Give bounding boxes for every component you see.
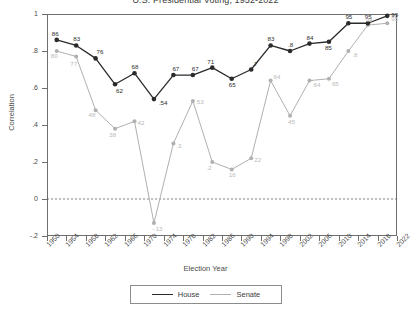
data-label-house: 85 (325, 45, 332, 51)
data-point-senate[interactable] (133, 119, 137, 123)
data-label-house: .8 (288, 42, 293, 48)
data-point-house[interactable] (54, 38, 59, 43)
data-label-senate: 94 (366, 17, 373, 23)
data-label-house: 62 (116, 88, 123, 94)
legend-label-house: House (178, 290, 200, 299)
data-label-senate: 95 (391, 16, 398, 22)
data-label-senate: 53 (197, 99, 204, 105)
data-label-senate: 16 (229, 172, 236, 178)
data-point-house[interactable] (210, 65, 215, 70)
data-label-house: 67 (172, 66, 179, 72)
data-point-house[interactable] (93, 56, 98, 61)
data-point-house[interactable] (74, 43, 79, 48)
legend-item-senate[interactable]: Senate (210, 290, 260, 299)
data-label-house: 68 (132, 64, 139, 70)
data-point-house[interactable] (307, 41, 312, 46)
data-label-senate: -.13 (152, 226, 163, 232)
chart-legend: House Senate (130, 285, 282, 304)
data-point-house[interactable] (288, 49, 293, 54)
data-label-house: 83 (268, 36, 275, 42)
data-label-house: .54 (159, 100, 168, 106)
data-label-senate: 64 (274, 74, 281, 80)
chart-canvas (47, 14, 397, 236)
data-point-house[interactable] (171, 73, 176, 78)
data-point-house[interactable] (152, 97, 157, 102)
data-point-house[interactable] (191, 73, 196, 78)
data-label-senate: .2 (206, 165, 211, 171)
data-label-senate: 80 (51, 53, 58, 59)
data-point-senate[interactable] (191, 99, 195, 103)
data-point-senate[interactable] (249, 156, 253, 160)
data-label-house: 67 (192, 66, 199, 72)
data-label-house: 65 (229, 82, 236, 88)
data-label-senate: 48 (89, 112, 96, 118)
chart-root: U.S. Presidential Voting, 1952-2022 Corr… (0, 0, 411, 311)
legend-line-senate-icon (210, 294, 231, 295)
series-line-senate (57, 23, 388, 223)
data-point-senate[interactable] (308, 79, 312, 83)
data-label-senate: 42 (138, 120, 145, 126)
data-point-house[interactable] (249, 67, 254, 72)
data-label-senate: 45 (288, 119, 295, 125)
legend-line-house-icon (152, 294, 173, 295)
y-tick-label: .8 (12, 47, 38, 54)
data-point-house[interactable] (268, 43, 273, 48)
y-tick-label: -.2 (12, 232, 38, 239)
y-tick-label: 1 (12, 10, 38, 17)
data-label-senate: .8 (352, 52, 357, 58)
y-tick-label: .4 (12, 121, 38, 128)
data-label-house: 86 (52, 31, 59, 37)
data-label-senate: .3 (176, 143, 181, 149)
legend-item-house[interactable]: House (152, 290, 200, 299)
data-point-house[interactable] (385, 14, 390, 19)
x-axis-title: Election Year (0, 264, 411, 273)
data-point-senate[interactable] (269, 79, 273, 83)
chart-title: U.S. Presidential Voting, 1952-2022 (0, 0, 411, 6)
data-label-house: 83 (73, 36, 80, 42)
data-point-house[interactable] (346, 21, 351, 26)
data-label-senate: 77 (70, 61, 77, 67)
data-label-senate: 22 (254, 157, 261, 163)
data-point-house[interactable] (113, 82, 118, 87)
x-tick-label: 2022 (395, 232, 411, 248)
y-tick-label: .6 (12, 84, 38, 91)
data-label-house: 71 (207, 59, 214, 65)
data-label-senate: 64 (314, 82, 321, 88)
data-point-senate[interactable] (171, 142, 175, 146)
data-point-senate[interactable] (385, 21, 389, 25)
data-point-senate[interactable] (74, 55, 78, 59)
y-axis-title: Correlation (7, 83, 16, 143)
data-point-house[interactable] (132, 71, 137, 76)
y-tick-label: .2 (12, 158, 38, 165)
data-label-senate: 65 (332, 81, 339, 87)
data-label-house: 76 (97, 49, 104, 55)
data-label-house: 95 (345, 14, 352, 20)
data-label-house: 84 (307, 35, 314, 41)
data-point-senate[interactable] (327, 77, 331, 81)
data-point-senate[interactable] (346, 49, 350, 53)
data-label-senate: 38 (109, 132, 116, 138)
data-label-house: .7 (252, 61, 257, 67)
legend-label-senate: Senate (236, 290, 260, 299)
y-tick-label: 0 (12, 195, 38, 202)
